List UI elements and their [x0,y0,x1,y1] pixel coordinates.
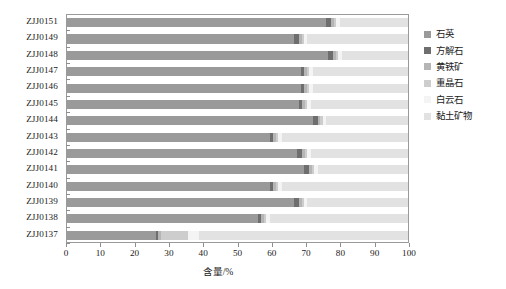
y-axis-tick-label: ZJJ0141 [26,161,58,176]
y-axis-tick-label: ZJJ0142 [26,145,58,160]
x-axis-tick-label: 20 [130,248,139,259]
bar-row [67,179,408,194]
legend-item[interactable]: 黏土矿物 [424,108,504,124]
legend-item-label: 白云石 [436,95,463,105]
x-axis-tick [272,243,273,247]
bar-segment [67,133,270,142]
bar-track [67,231,408,240]
y-axis-tick [66,112,70,113]
bar-track [67,18,408,27]
legend-item[interactable]: 石英 [424,26,504,42]
bar-track [67,165,408,174]
bar-track [67,67,408,76]
legend-item[interactable]: 重晶石 [424,75,504,91]
y-axis-tick [66,96,70,97]
x-axis-tick-label: 30 [164,248,173,259]
y-axis-tick-label: ZJJ0138 [26,210,58,225]
bar-row [67,162,408,177]
bar-segment [340,18,408,27]
bar-segment [67,165,304,174]
y-axis-tick-label: ZJJ0139 [26,194,58,209]
legend-item-label: 黄铁矿 [436,62,463,72]
bar-track [67,214,408,223]
y-axis-tick-label: ZJJ0148 [26,47,58,62]
legend-swatch-icon [424,31,431,38]
bar-track [67,51,408,60]
y-axis-tick [66,227,70,228]
y-axis-labels: ZJJ0151ZJJ0149ZJJ0148ZJJ0147ZJJ0146ZJJ01… [0,14,64,243]
y-axis-tick-label: ZJJ0137 [26,227,58,242]
bar-segment [313,84,408,93]
y-axis-tick-label: ZJJ0149 [26,30,58,45]
bar-segment [307,198,408,207]
bar-segment [67,149,297,158]
legend-item[interactable]: 方解石 [424,42,504,58]
bar-segment [270,214,408,223]
x-axis-tick-label: 60 [267,248,276,259]
x-axis-tick-label: 70 [302,248,311,259]
bar-segment [67,116,313,125]
y-axis-tick [66,145,70,146]
y-axis-tick [66,47,70,48]
y-axis-tick-label: ZJJ0143 [26,129,58,144]
x-axis-tick [135,243,136,247]
bar-segment [188,231,198,240]
y-axis-tick-label: ZJJ0151 [26,14,58,29]
bar-segment [326,116,408,125]
y-axis-tick [66,243,70,244]
bar-row [67,97,408,112]
bar-row [67,113,408,128]
y-axis-tick [66,178,70,179]
bar-row [67,130,408,145]
bar-row [67,80,408,95]
bar-segment [161,231,188,240]
bar-segment [282,133,408,142]
bar-segment [67,51,328,60]
bar-segment [67,84,301,93]
bar-segment [318,165,408,174]
x-axis-tick [340,243,341,247]
legend-item-label: 石英 [436,29,454,39]
bar-segment [67,34,294,43]
legend-item-label: 方解石 [436,46,463,56]
legend-swatch-icon [424,80,431,87]
bar-track [67,149,408,158]
y-axis-tick [66,30,70,31]
legend-item[interactable]: 黄铁矿 [424,59,504,75]
bar-track [67,34,408,43]
y-axis-tick-label: ZJJ0147 [26,63,58,78]
y-axis-tick [66,79,70,80]
x-axis-tick [203,243,204,247]
bar-segment [67,231,156,240]
x-axis-tick [306,243,307,247]
x-axis-tick [409,243,410,247]
bar-row [67,195,408,210]
legend-swatch-icon [424,47,431,54]
bar-track [67,133,408,142]
y-axis-tick-label: ZJJ0146 [26,79,58,94]
legend-item[interactable]: 白云石 [424,92,504,108]
bar-segment [199,231,408,240]
x-axis-tick-label: 10 [96,248,105,259]
bar-row [67,211,408,226]
legend-item-label: 重晶石 [436,78,463,88]
y-axis-tick [66,210,70,211]
y-axis-tick-label: ZJJ0145 [26,96,58,111]
x-axis-tick [169,243,170,247]
bar-track [67,100,408,109]
x-axis-tick [375,243,376,247]
bar-segment [67,100,299,109]
bar-track [67,198,408,207]
legend-swatch-icon [424,63,431,70]
x-axis-title-text: 含量/% [203,266,234,277]
bar-segment [311,149,408,158]
y-axis-tick-label: ZJJ0140 [26,178,58,193]
x-axis-tick-label: 0 [64,248,69,259]
bar-row [67,48,408,63]
x-axis-tick [238,243,239,247]
legend: 石英方解石黄铁矿重晶石白云石黏土矿物 [424,26,504,124]
bar-segment [67,182,270,191]
x-axis-tick-label: 90 [370,248,379,259]
legend-swatch-icon [424,113,431,120]
bars-layer [67,15,408,242]
